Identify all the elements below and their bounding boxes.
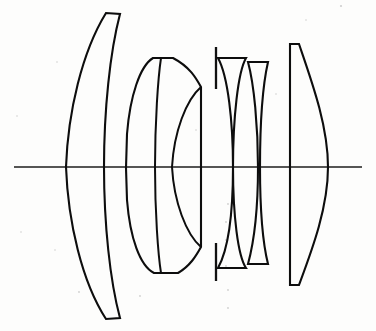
paper-speck xyxy=(275,93,277,95)
paper-speck xyxy=(305,19,307,21)
lens-element-2-outline xyxy=(126,58,201,273)
paper-speck xyxy=(56,61,58,63)
paper-speck xyxy=(225,265,227,267)
lens-element-1-outline xyxy=(66,13,120,319)
paper-speck xyxy=(16,115,18,117)
lens-element-6-outline xyxy=(290,44,328,285)
paper-speck xyxy=(20,231,22,233)
lens-group-4 xyxy=(290,44,328,285)
lens-group-2 xyxy=(126,58,201,273)
paper-speck xyxy=(139,295,141,297)
paper-speck xyxy=(225,221,227,223)
paper-speck xyxy=(227,289,229,291)
paper-speck xyxy=(78,291,80,293)
lens-group-1 xyxy=(66,13,120,319)
lens-element-2-cemented-surface xyxy=(155,58,161,273)
paper-speckle-group xyxy=(16,5,342,309)
lens-element-5-outline xyxy=(248,62,268,264)
paper-speck xyxy=(195,129,197,131)
paper-speck xyxy=(340,5,342,7)
lens-group-3 xyxy=(218,58,268,268)
lens-diagram-canvas xyxy=(0,0,376,331)
lens-cross-section-svg xyxy=(0,0,376,331)
paper-speck xyxy=(227,307,229,309)
paper-speck xyxy=(54,249,56,251)
paper-speck xyxy=(227,203,229,205)
lens-element-4-outline xyxy=(218,58,246,268)
